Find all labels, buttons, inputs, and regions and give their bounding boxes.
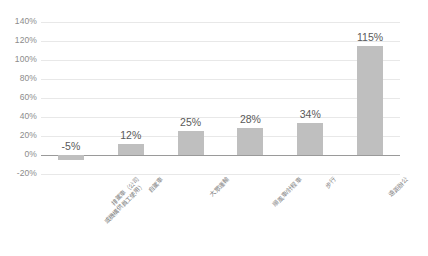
x-axis-category-label: 自駕車 bbox=[146, 176, 164, 194]
bar-slot: 12% bbox=[101, 22, 161, 174]
y-axis-tick-label: 140% bbox=[0, 16, 37, 26]
plot-area: -5%12%25%28%34%115% bbox=[41, 22, 400, 174]
bar[interactable] bbox=[237, 128, 263, 155]
y-axis-tick-label: 40% bbox=[0, 111, 37, 121]
bar-slot: 25% bbox=[161, 22, 221, 174]
bar-data-label: -5% bbox=[62, 140, 81, 152]
category-label-line: 步行 bbox=[324, 176, 338, 190]
category-label-line: 自駕車 bbox=[146, 176, 164, 194]
bar-data-label: 25% bbox=[180, 116, 201, 128]
x-axis-category-label: 遠距辦公 bbox=[387, 176, 409, 198]
x-axis-category-labels: 排駕車（公司或機構供員工使用）自駕車大眾運輸順風車/計程車步行遠距辦公 bbox=[41, 176, 400, 250]
bar[interactable] bbox=[58, 155, 84, 160]
gridline bbox=[41, 174, 400, 175]
bar-slot: -5% bbox=[41, 22, 101, 174]
x-axis-category-label: 大眾運輸 bbox=[208, 176, 230, 198]
x-axis-category-label: 步行 bbox=[324, 176, 338, 190]
bar-data-label: 12% bbox=[120, 129, 141, 141]
category-label-line: 順風車/計程車 bbox=[271, 176, 303, 208]
bar[interactable] bbox=[178, 131, 204, 155]
category-label-line: 遠距辦公 bbox=[387, 176, 409, 198]
y-axis-tick-label: 100% bbox=[0, 54, 37, 64]
category-label-line: 大眾運輸 bbox=[208, 176, 230, 198]
bar-slot: 115% bbox=[340, 22, 400, 174]
bar[interactable] bbox=[297, 123, 323, 155]
x-axis-category-label: 順風車/計程車 bbox=[271, 176, 303, 208]
bar-chart: 140%120%100%80%60%40%20%0%-20% -5%12%25%… bbox=[0, 0, 428, 256]
bar-slot: 34% bbox=[280, 22, 340, 174]
bar-data-label: 28% bbox=[240, 113, 261, 125]
bar-series: -5%12%25%28%34%115% bbox=[41, 22, 400, 174]
bar-data-label: 34% bbox=[300, 108, 321, 120]
y-axis-tick-label: -20% bbox=[0, 168, 37, 178]
y-axis-tick-label: 80% bbox=[0, 73, 37, 83]
bar-data-label: 115% bbox=[357, 31, 383, 43]
bar-slot: 28% bbox=[221, 22, 281, 174]
bar[interactable] bbox=[118, 144, 144, 155]
x-axis-category-label: 排駕車（公司或機構供員工使用） bbox=[97, 176, 146, 225]
y-axis-tick-label: 120% bbox=[0, 35, 37, 45]
bar[interactable] bbox=[357, 46, 383, 155]
y-axis-tick-label: 60% bbox=[0, 92, 37, 102]
y-axis-tick-label: 0% bbox=[0, 149, 37, 159]
y-axis-tick-label: 20% bbox=[0, 130, 37, 140]
